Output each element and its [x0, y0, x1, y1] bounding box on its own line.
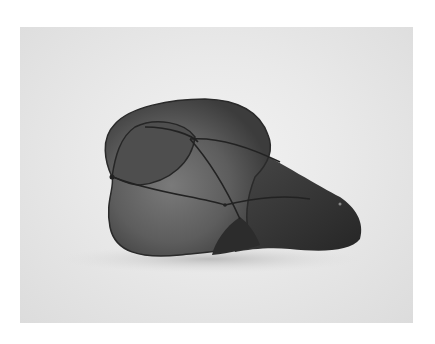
photograph: [20, 27, 413, 323]
sculpture-illustration: [20, 27, 413, 323]
wire-knot: [339, 203, 342, 206]
wire-knot: [110, 175, 115, 180]
wire-knot: [223, 203, 227, 207]
